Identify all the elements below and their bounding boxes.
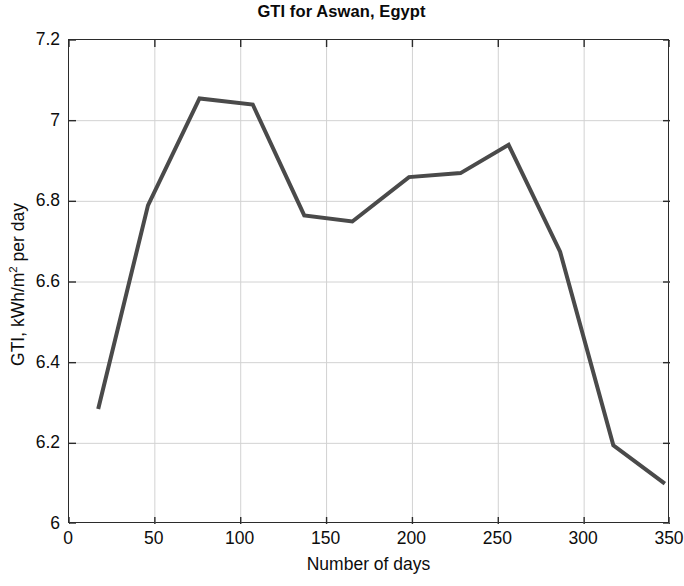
x-axis-tick-label: 50: [144, 528, 163, 549]
x-axis-tick-label: 0: [63, 528, 73, 549]
plot-area: [68, 39, 669, 523]
y-axis-tick-label: 7.2: [4, 29, 60, 50]
x-axis-tick-label: 350: [654, 528, 683, 549]
chart-title: GTI for Aswan, Egypt: [0, 2, 683, 21]
y-axis-title-prefix: GTI, kWh/m: [8, 273, 28, 366]
plot-svg: [69, 40, 670, 524]
data-series-line: [98, 98, 665, 483]
y-axis-title-exponent: 2: [7, 266, 19, 272]
y-axis-title-suffix: per day: [8, 203, 28, 266]
x-axis-tick-label: 100: [225, 528, 254, 549]
x-axis-tick-label: 200: [397, 528, 426, 549]
x-axis-tick-label: 300: [569, 528, 598, 549]
gridlines: [69, 40, 670, 524]
x-axis-tick-label: 150: [311, 528, 340, 549]
y-axis-title: GTI, kWh/m2 per day: [8, 95, 29, 475]
x-axis-title: Number of days: [68, 554, 669, 575]
y-axis-tick-label: 6: [4, 513, 60, 534]
x-axis-tick-label: 250: [483, 528, 512, 549]
